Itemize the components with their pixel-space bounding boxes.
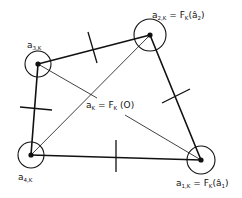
node-dot-a3 (35, 61, 40, 66)
edge-a4-a3 (31, 64, 38, 155)
edge-a2-a1 (150, 35, 201, 160)
node-label-a4: a4,K (18, 172, 33, 183)
node-label-a2: a2,K = FK(â2) (152, 10, 204, 21)
diagonal-a4-a2 (31, 35, 150, 155)
center-point-label: aK = FK (O) (86, 100, 134, 111)
tick-mark-top-edge (88, 32, 97, 63)
node-label-a3: a3,K (27, 40, 42, 51)
pointer-line-a3 (38, 64, 97, 98)
tick-mark-left-edge (20, 107, 52, 110)
node-dot-a2 (147, 32, 152, 37)
edge-a3-a2 (38, 35, 150, 64)
node-dot-a1 (198, 157, 203, 162)
node-label-a1: a1,K = FK(â1) (176, 178, 228, 189)
finite-element-diagram: a2,K = FK(â2) a3,K a4,K a1,K = FK(â1) aK… (0, 0, 242, 198)
pointer-line-a1 (125, 115, 201, 160)
tick-mark-right-edge (162, 89, 190, 103)
node-dot-a4 (28, 152, 33, 157)
